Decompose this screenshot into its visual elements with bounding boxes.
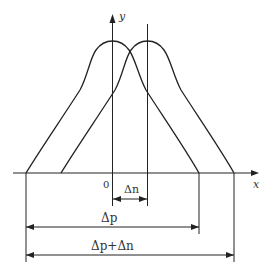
y-axis-arrow-icon [110,14,116,23]
x-axis-arrow-icon [251,170,259,176]
origin-label: 0 [103,179,109,190]
diagram-svg: y x 0 Δn Δp Δp+Δn [0,0,267,275]
x-axis [13,170,259,176]
x-axis-label: x [253,178,260,191]
delta-p-plus-delta-n-label: Δp+Δn [91,239,134,253]
diagram-canvas: y x 0 Δn Δp Δp+Δn [0,0,267,275]
y-axis [110,14,116,206]
delta-p-label: Δp [101,211,118,225]
delta-n-label: Δn [124,183,139,196]
y-axis-label: y [118,10,126,23]
